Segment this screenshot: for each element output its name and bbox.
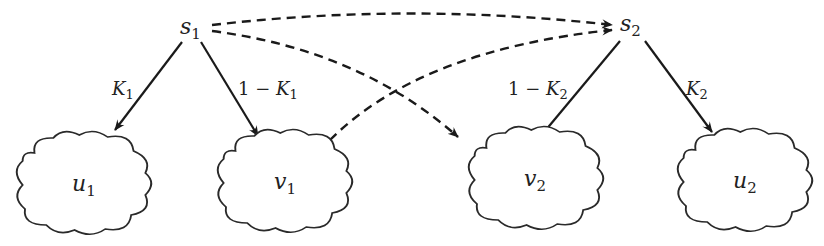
node-label-s2: s2 (620, 11, 641, 40)
diagram-svg: s1 s2 u1 v1 v2 u2 K1 1 − K1 1 − K2 K2 (0, 0, 824, 246)
edge-label-s1-u1: K1 (111, 78, 134, 102)
edge-label-s1-v1: 1 − K1 (238, 78, 298, 102)
edge-v1-s2 (330, 30, 612, 140)
edges-solid (115, 41, 712, 137)
node-label-s1: s1 (180, 14, 201, 43)
edge-s1-s2 (212, 14, 612, 26)
edge-label-s2-v2: 1 − K2 (508, 78, 568, 102)
diagram-canvas: s1 s2 u1 v1 v2 u2 K1 1 − K1 1 − K2 K2 (0, 0, 824, 246)
edge-label-s2-u2: K2 (685, 78, 708, 102)
